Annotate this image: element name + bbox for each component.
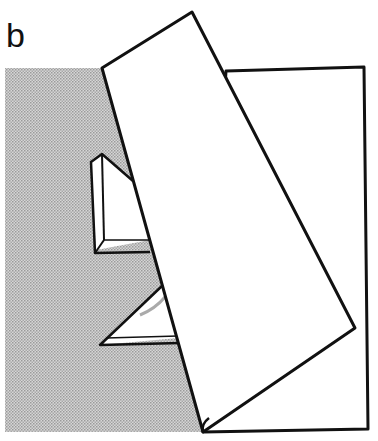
folded-paper-illustration — [0, 0, 378, 441]
